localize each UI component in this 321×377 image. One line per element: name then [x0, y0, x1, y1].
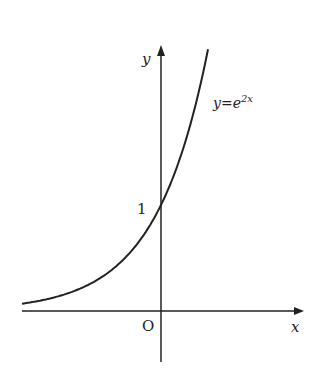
y-axis-label: y	[141, 50, 151, 68]
y-intercept-label: 1	[137, 200, 147, 218]
origin-label: O	[142, 317, 154, 335]
exponential-curve	[22, 49, 208, 303]
chart: y x O 1 y=e2x	[0, 0, 321, 377]
x-axis-arrow-icon	[294, 307, 304, 315]
y-axis-arrow-icon	[157, 45, 165, 56]
curve-label: y=e2x	[212, 93, 253, 111]
x-axis-label: x	[291, 318, 300, 336]
